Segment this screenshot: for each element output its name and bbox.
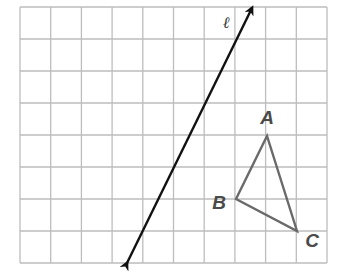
- geometry-figure: ℓ A B C: [0, 0, 343, 275]
- line-l-label: ℓ: [223, 13, 230, 32]
- triangle-abc: [236, 136, 297, 231]
- coordinate-grid: [20, 7, 327, 263]
- vertex-label-c: C: [305, 230, 319, 251]
- vertex-label-a: A: [259, 107, 274, 128]
- vertex-label-b: B: [212, 192, 226, 213]
